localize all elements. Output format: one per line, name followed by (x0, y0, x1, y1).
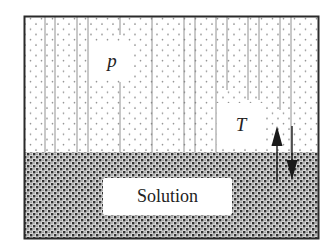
temperature-label: T (217, 103, 265, 147)
solution-label: Solution (103, 178, 232, 215)
pressure-label: p (90, 42, 134, 80)
vapor-region (25, 17, 318, 152)
equilibrium-diagram: p T Solution (0, 0, 335, 247)
